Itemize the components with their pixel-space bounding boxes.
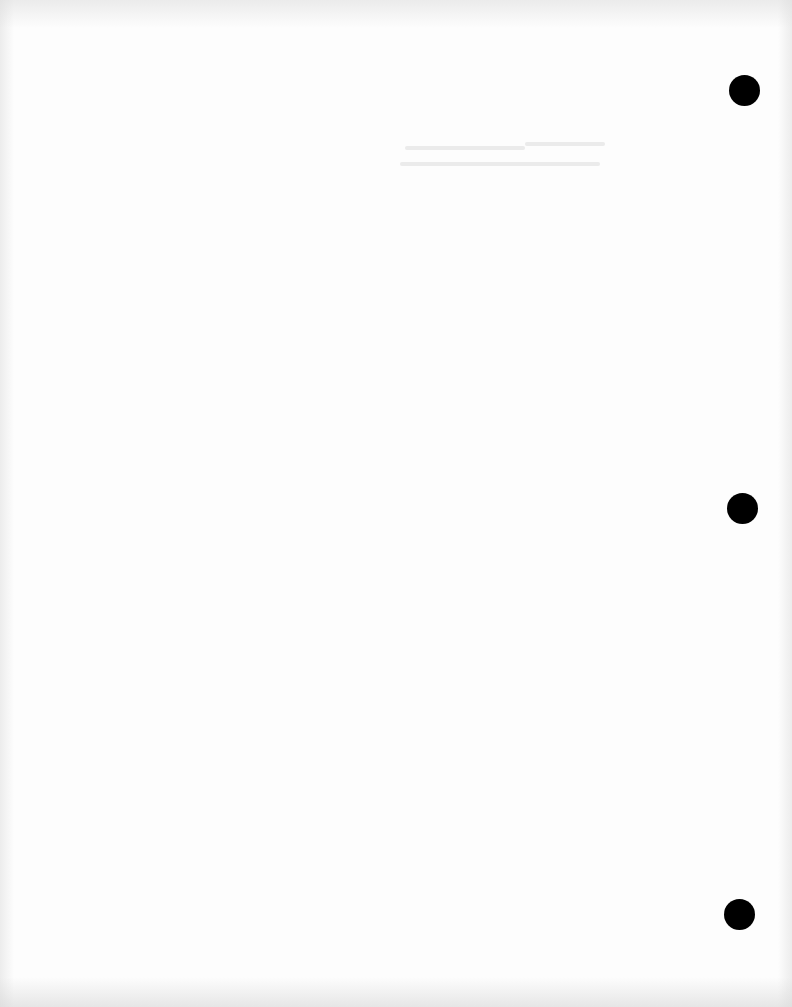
punch-hole-middle bbox=[727, 493, 758, 524]
punch-hole-top bbox=[729, 75, 760, 106]
faint-bleed-through bbox=[385, 140, 635, 176]
scanned-page bbox=[0, 0, 792, 1007]
punch-hole-bottom bbox=[724, 899, 755, 930]
